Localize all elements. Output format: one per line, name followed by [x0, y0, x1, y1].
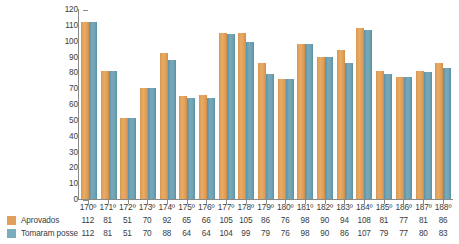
bar-tomaram-posse[interactable] — [266, 74, 274, 199]
table-cell-value: 70 — [137, 214, 157, 227]
bar-group[interactable] — [197, 9, 217, 199]
table-cell-value: 86 — [433, 214, 453, 227]
bar-aprovados[interactable] — [120, 118, 128, 199]
bar-tomaram-posse[interactable] — [227, 34, 235, 199]
bar-tomaram-posse[interactable] — [325, 57, 333, 200]
bar-tomaram-posse[interactable] — [89, 22, 97, 199]
bar-aprovados[interactable] — [356, 28, 364, 199]
bar-group[interactable] — [315, 9, 335, 199]
table-cell-value: 81 — [98, 227, 118, 240]
x-axis-category-label: 172º — [117, 201, 137, 214]
bar-aprovados[interactable] — [396, 77, 404, 199]
bar-tomaram-posse[interactable] — [286, 79, 294, 199]
table-cell-value: 51 — [117, 214, 137, 227]
bar-tomaram-posse[interactable] — [384, 74, 392, 199]
x-axis-category-label: 178º — [236, 201, 256, 214]
table-cell-value: 64 — [177, 227, 197, 240]
table-cell-value: 104 — [216, 227, 236, 240]
legend-item[interactable]: Tomaram posse — [7, 227, 81, 240]
bar-group[interactable] — [138, 9, 158, 199]
bar-group[interactable] — [99, 9, 119, 199]
x-axis-category-label: 183º — [335, 201, 355, 214]
bar-tomaram-posse[interactable] — [404, 77, 412, 199]
table-cell-value: 77 — [394, 214, 414, 227]
bar-tomaram-posse[interactable] — [345, 63, 353, 199]
bar-tomaram-posse[interactable] — [148, 88, 156, 199]
bar-group[interactable] — [433, 9, 453, 199]
legend-item-label: Aprovados — [21, 214, 59, 227]
table-cell-value: 79 — [256, 227, 276, 240]
bar-group[interactable] — [414, 9, 434, 199]
bar-aprovados[interactable] — [140, 88, 148, 199]
bar-tomaram-posse[interactable] — [305, 44, 313, 199]
bar-aprovados[interactable] — [435, 63, 443, 199]
bar-tomaram-posse[interactable] — [128, 118, 136, 199]
bar-aprovados[interactable] — [81, 22, 89, 199]
bar-tomaram-posse[interactable] — [109, 71, 117, 199]
bar-aprovados[interactable] — [101, 71, 109, 199]
bar-aprovados[interactable] — [278, 79, 286, 199]
bar-aprovados[interactable] — [297, 44, 305, 199]
bar-group[interactable] — [118, 9, 138, 199]
bar-aprovados[interactable] — [179, 96, 187, 199]
bar-group[interactable] — [237, 9, 257, 199]
bar-tomaram-posse[interactable] — [168, 60, 176, 199]
x-axis-category-label: 175º — [177, 201, 197, 214]
grouped-bar-chart: 1201101009080706050403020100 170º171º172… — [0, 0, 459, 244]
table-row: 1128151708864641049979769890861077977808… — [78, 227, 453, 240]
legend-color-swatch — [7, 229, 16, 238]
bar-group[interactable] — [79, 9, 99, 199]
table-row: 1128151709265661051058676989094108817781… — [78, 214, 453, 227]
table-cell-value: 90 — [315, 227, 335, 240]
table-cell-value: 88 — [157, 227, 177, 240]
bar-tomaram-posse[interactable] — [246, 42, 254, 199]
legend-item[interactable]: Aprovados — [7, 214, 81, 227]
table-cell-value: 80 — [413, 227, 433, 240]
bar-group[interactable] — [374, 9, 394, 199]
bar-tomaram-posse[interactable] — [207, 98, 215, 199]
bar-group[interactable] — [217, 9, 237, 199]
bar-aprovados[interactable] — [337, 50, 345, 199]
table-cell-value: 77 — [394, 227, 414, 240]
table-cell-value: 83 — [433, 227, 453, 240]
bar-group[interactable] — [394, 9, 414, 199]
bar-tomaram-posse[interactable] — [187, 98, 195, 199]
x-axis-category-label: 185º — [374, 201, 394, 214]
legend-item-label: Tomaram posse — [21, 227, 78, 240]
bar-aprovados[interactable] — [219, 33, 227, 199]
bar-aprovados[interactable] — [199, 95, 207, 200]
table-cell-value: 51 — [117, 227, 137, 240]
table-cell-value: 70 — [137, 227, 157, 240]
bar-aprovados[interactable] — [160, 53, 168, 199]
bar-aprovados[interactable] — [258, 63, 266, 199]
bar-group[interactable] — [355, 9, 375, 199]
table-cell-value: 94 — [335, 214, 355, 227]
x-axis-category-label: 181º — [295, 201, 315, 214]
bar-group[interactable] — [276, 9, 296, 199]
bar-tomaram-posse[interactable] — [443, 68, 451, 199]
table-cell-value: 65 — [177, 214, 197, 227]
table-cell-value: 81 — [374, 214, 394, 227]
table-cell-value: 86 — [256, 214, 276, 227]
plot-area: 1201101009080706050403020100 — [78, 9, 453, 200]
x-axis-category-label: 186º — [394, 201, 414, 214]
table-cell-value: 66 — [196, 214, 216, 227]
bar-group[interactable] — [158, 9, 178, 199]
table-cell-value: 105 — [216, 214, 236, 227]
table-cell-value: 64 — [196, 227, 216, 240]
bar-group[interactable] — [256, 9, 276, 199]
x-axis-category-label: 176º — [196, 201, 216, 214]
table-cell-value: 99 — [236, 227, 256, 240]
bar-aprovados[interactable] — [317, 57, 325, 200]
bar-group[interactable] — [296, 9, 316, 199]
table-cell-value: 98 — [295, 214, 315, 227]
bar-tomaram-posse[interactable] — [424, 72, 432, 199]
x-axis-category-label: 188º — [433, 201, 453, 214]
bar-group[interactable] — [335, 9, 355, 199]
bar-aprovados[interactable] — [238, 33, 246, 199]
bar-group[interactable] — [177, 9, 197, 199]
bar-aprovados[interactable] — [376, 71, 384, 199]
x-axis-category-label: 173º — [137, 201, 157, 214]
bar-tomaram-posse[interactable] — [364, 30, 372, 199]
bar-aprovados[interactable] — [416, 71, 424, 199]
